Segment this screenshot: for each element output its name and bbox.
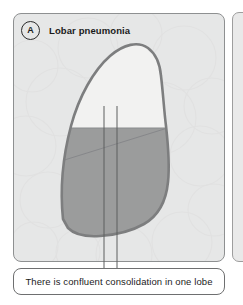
- figure-caption-text: There is confluent consolidation in one …: [25, 276, 212, 287]
- adjacent-panel-peek: [232, 12, 243, 262]
- figure-caption-box: There is confluent consolidation in one …: [13, 268, 225, 295]
- upper-lobe-region: [44, 24, 204, 128]
- figure-panel-a: A Lobar pneumonia: [13, 13, 225, 262]
- consolidated-lower-lobe-region: [44, 128, 204, 258]
- lung-diagram: [14, 14, 225, 262]
